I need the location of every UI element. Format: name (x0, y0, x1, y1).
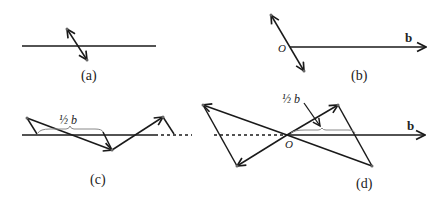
panel-b: O b (b) (270, 14, 427, 85)
vector-label-b: b (405, 30, 412, 45)
point (162, 116, 165, 119)
arrow (203, 105, 287, 135)
vector-label-b: b (407, 118, 414, 133)
segment (287, 135, 372, 166)
origin-label: O (285, 138, 293, 150)
caption-d: (d) (356, 176, 373, 192)
point (236, 165, 239, 168)
point (371, 165, 374, 168)
point (111, 149, 114, 152)
caption-c: (c) (90, 172, 106, 188)
point (202, 104, 205, 107)
point (26, 117, 29, 120)
segment (203, 105, 237, 166)
point (337, 104, 340, 107)
caption-b: (b) (351, 68, 368, 84)
caption-a: (a) (81, 68, 97, 84)
point (86, 59, 89, 62)
pointer-arrow (304, 103, 320, 126)
point (66, 28, 69, 31)
panel-a: (a) (22, 28, 156, 85)
vector-diagram: (a) O b (b) ½ b (c) (0, 0, 446, 199)
origin-label: O (278, 42, 286, 54)
point (303, 70, 306, 73)
panel-d: ½ b O b (d) (202, 92, 426, 192)
brace (291, 128, 355, 133)
half-b-label: ½ b (59, 113, 77, 127)
point (270, 14, 273, 17)
half-b-label: ½ b (282, 92, 300, 106)
arrow-2 (112, 117, 163, 150)
arrow (237, 135, 287, 166)
segment (163, 117, 174, 134)
double-arrow (271, 15, 304, 71)
brace (38, 126, 103, 133)
panel-c: ½ b (c) (22, 113, 192, 188)
double-arrow (67, 29, 87, 60)
